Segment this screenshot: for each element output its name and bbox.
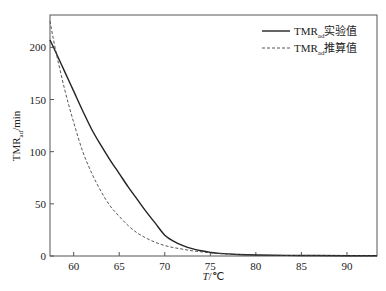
- x-tick-label: 90: [341, 260, 353, 272]
- x-tick-label: 60: [68, 260, 80, 272]
- y-axis-label: TMRad/min: [10, 110, 25, 161]
- series-experimental-line: [50, 40, 377, 256]
- legend-label-estimated: TMRad推算值: [294, 41, 357, 57]
- y-tick-label: 150: [30, 94, 47, 106]
- y-tick-label: 0: [41, 250, 47, 262]
- legend-label-experimental: TMRad实验值: [294, 24, 357, 40]
- x-axis-label: T/℃: [202, 270, 223, 282]
- series-estimated-line: [50, 21, 377, 256]
- y-tick-label: 100: [30, 146, 47, 158]
- chart: 60657075808590 050100150200 T/℃ TMRad/mi…: [0, 0, 386, 291]
- x-tick-label: 80: [250, 260, 262, 272]
- x-tick-label: 65: [114, 260, 126, 272]
- x-tick-label: 85: [296, 260, 308, 272]
- series-group: [50, 21, 377, 256]
- y-tick-label: 50: [35, 198, 47, 210]
- y-tick-label: 200: [30, 41, 47, 53]
- x-tick-label: 70: [159, 260, 171, 272]
- legend: TMRad实验值 TMRad推算值: [262, 24, 357, 57]
